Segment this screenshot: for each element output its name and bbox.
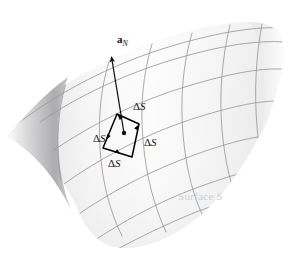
surface-diagram-svg [0,0,295,257]
figure-canvas: aN ΔS ΔS ΔS ΔS Surface S [0,0,295,257]
curved-surface-body [8,22,283,248]
patch-center-dot [122,131,126,135]
